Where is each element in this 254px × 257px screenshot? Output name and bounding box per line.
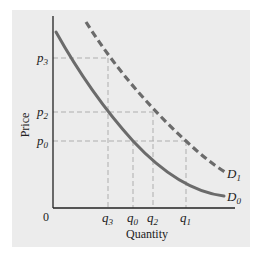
demand-curve-d1 <box>86 22 225 172</box>
y-tick-p0: p0 <box>36 133 49 150</box>
x-tick-q1: q1 <box>180 210 191 227</box>
y-tick-p3: p3 <box>36 50 49 67</box>
x-axis-title: Quantity <box>126 227 168 241</box>
demand-curve-d0 <box>56 32 224 196</box>
x-tick-q0: q0 <box>127 210 139 227</box>
y-tick-p2: p2 <box>36 104 49 121</box>
demand-shift-diagram: p3 p2 p0 Price 0 q3 q0 q2 q1 Quantity D1… <box>0 0 254 257</box>
curve-label-d0: D0 <box>226 189 241 206</box>
y-axis-title: Price <box>18 113 32 138</box>
x-tick-q3: q3 <box>102 210 114 227</box>
x-tick-q2: q2 <box>147 210 159 227</box>
curve-label-d1: D1 <box>226 166 241 183</box>
origin-label: 0 <box>43 210 49 224</box>
guide-lines <box>53 58 186 208</box>
